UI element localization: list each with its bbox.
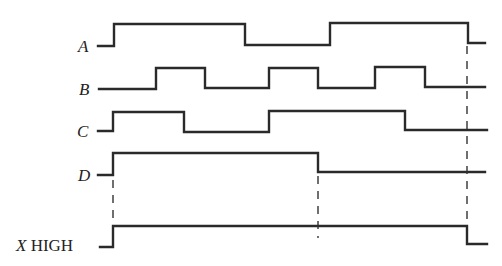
- signal-label-a: A: [77, 37, 89, 56]
- signal-label-c: C: [77, 122, 89, 141]
- waveform-d: [98, 153, 485, 175]
- signal-label-d: D: [77, 166, 91, 185]
- waveform-x: [100, 226, 487, 247]
- waveform-c: [98, 111, 487, 132]
- signal-label-b: B: [79, 80, 90, 99]
- signal-label-high: HIGH: [26, 236, 73, 255]
- waveform-a: [98, 23, 485, 46]
- timing-diagram: A B C D X HIGH: [0, 0, 502, 266]
- signal-label-x: X: [15, 236, 27, 255]
- waveform-b: [99, 67, 485, 89]
- signal-label-x-high: X HIGH: [15, 236, 73, 255]
